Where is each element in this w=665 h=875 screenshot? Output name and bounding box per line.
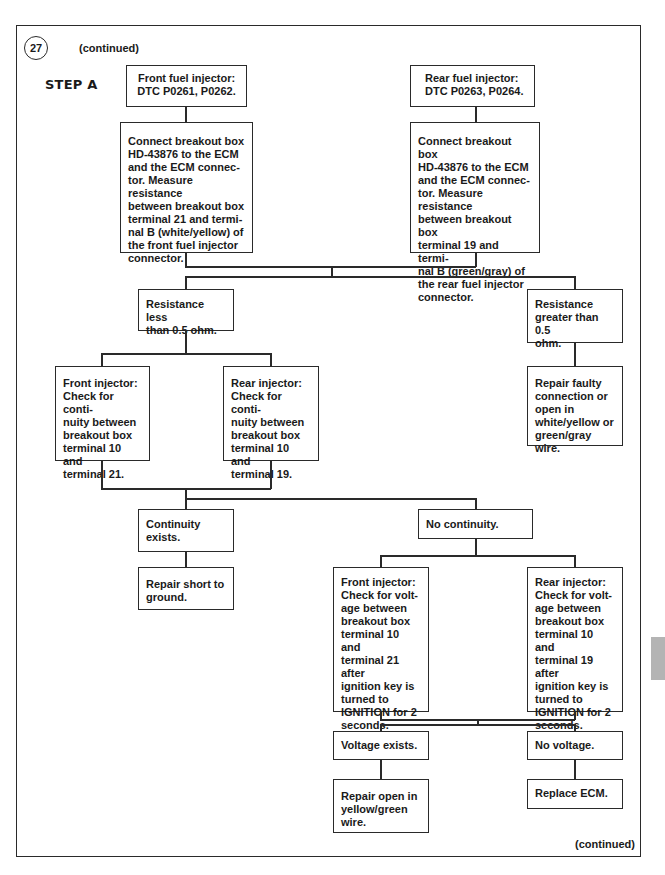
connector-line — [270, 460, 272, 489]
connector-line — [475, 538, 477, 556]
rear-dtc-box: Rear fuel injector: DTC P0263, P0264. — [410, 65, 535, 107]
continued-top-label: (continued) — [79, 42, 139, 54]
repair-open-box: Repair open in yellow/green wire. — [333, 779, 429, 833]
voltage-exists-box: Voltage exists. — [333, 731, 429, 760]
connector-line — [574, 342, 576, 367]
connector-line — [270, 353, 272, 367]
rear-connect-box: Connect breakout box HD-43876 to the ECM… — [410, 122, 540, 253]
connector-line — [101, 353, 103, 367]
front-dtc-box: Front fuel injector: DTC P0261, P0262. — [126, 65, 247, 107]
connector-line — [185, 551, 187, 568]
connector-line — [185, 276, 575, 278]
connector-line — [101, 353, 271, 355]
resistance-less-box: Resistance less than 0.5 ohm. — [138, 289, 234, 331]
no-voltage-box: No voltage. — [527, 731, 623, 760]
continued-bottom-label: (continued) — [575, 838, 635, 850]
connector-line — [185, 498, 476, 500]
step-label: STEP A — [45, 77, 97, 92]
rear-continuity-box: Rear injector: Check for conti- nuity be… — [223, 366, 319, 461]
connector-line — [185, 106, 187, 123]
front-continuity-box: Front injector: Check for conti- nuity b… — [55, 366, 150, 461]
connector-line — [380, 759, 382, 780]
replace-ecm-box: Replace ECM. — [527, 779, 623, 809]
repair-short-box: Repair short to ground. — [138, 567, 234, 610]
connector-line — [380, 724, 575, 726]
continuity-exists-box: Continuity exists. — [138, 509, 234, 552]
section-side-tab — [651, 637, 665, 680]
connector-line — [475, 106, 477, 123]
no-continuity-box: No continuity. — [418, 509, 533, 539]
step-number-badge: 27 — [24, 36, 48, 60]
resistance-greater-box: Resistance greater than 0.5 ohm. — [527, 289, 623, 343]
connector-line — [380, 555, 575, 557]
connector-line — [574, 759, 576, 780]
connector-line — [101, 460, 103, 489]
front-voltage-box: Front injector: Check for volt- age betw… — [333, 567, 429, 712]
front-connect-box: Connect breakout box HD-43876 to the ECM… — [120, 122, 253, 253]
rear-voltage-box: Rear injector: Check for volt- age betwe… — [527, 567, 623, 712]
connector-line — [475, 252, 477, 267]
connector-line — [185, 276, 187, 290]
connector-line — [574, 276, 576, 290]
connector-line — [185, 330, 187, 354]
connector-line — [185, 252, 187, 267]
repair-faulty-box: Repair faulty connection or open in whit… — [527, 366, 623, 446]
